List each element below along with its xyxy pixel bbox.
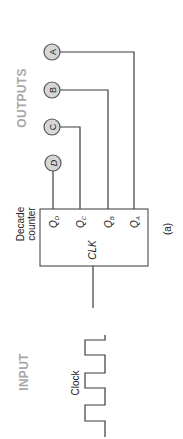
counter-title-line1: Decade [15,206,26,241]
output-wires [53,52,134,209]
output-node-d: D [45,155,61,171]
output-node-b: B [44,82,60,98]
outputs-section-label: OUTPUTS [15,68,29,127]
clock-signal-label: Clock [70,370,81,396]
node-label-c: C [48,123,58,130]
output-node-a: A [44,44,60,60]
input-section-label: INPUT [17,353,31,391]
wire-output-c [60,127,80,209]
figure-caption: (a) [162,223,173,235]
wire-output-b [60,90,108,209]
node-label-d: D [49,159,59,166]
counter-title-line2: counter [26,207,37,241]
wire-output-a [60,52,134,209]
clock-square-wave [85,335,105,437]
output-node-c: C [44,119,60,135]
node-label-a: A [48,49,58,55]
node-label-b: B [48,87,58,93]
decade-counter-diagram: OUTPUTS A B C D Decade counter QD QC QB … [0,0,183,439]
clk-pin-label: CLK [87,239,98,260]
